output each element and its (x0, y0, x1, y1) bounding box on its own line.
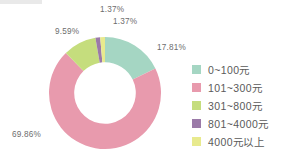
donut-slice-group (49, 37, 161, 149)
legend-swatch-icon-1 (192, 83, 201, 92)
slice-value-label-3: 1.37% (100, 5, 124, 14)
chart-legend: 0~100元 101~300元 301~800元 801~4000元 4000元… (192, 60, 290, 150)
legend-item-4[interactable]: 4000元以上 (192, 132, 290, 150)
legend-item-2[interactable]: 301~800元 (192, 96, 290, 114)
donut-chart-plot-area (47, 35, 163, 151)
legend-swatch-icon-0 (192, 65, 201, 74)
legend-item-3[interactable]: 801~4000元 (192, 114, 290, 132)
legend-label-4: 4000元以上 (208, 134, 264, 149)
legend-label-1: 101~300元 (208, 80, 262, 95)
slice-value-label-0: 17.81% (157, 43, 186, 52)
slice-value-label-1: 69.86% (12, 130, 41, 139)
slice-value-label-2: 9.59% (55, 27, 79, 36)
legend-label-0: 0~100元 (208, 62, 250, 77)
legend-swatch-icon-3 (192, 119, 201, 128)
top-decoration-strip (0, 0, 42, 4)
legend-label-2: 301~800元 (208, 98, 262, 113)
legend-swatch-icon-4 (192, 137, 201, 146)
slice-value-label-4: 1.37% (113, 17, 137, 26)
legend-swatch-icon-2 (192, 101, 201, 110)
donut-svg (47, 35, 163, 151)
donut-chart-figure: 17.81% 69.86% 9.59% 1.37% 1.37% 0~100元 1… (0, 0, 292, 158)
legend-item-0[interactable]: 0~100元 (192, 60, 290, 78)
legend-label-3: 801~4000元 (208, 116, 269, 131)
legend-item-1[interactable]: 101~300元 (192, 78, 290, 96)
